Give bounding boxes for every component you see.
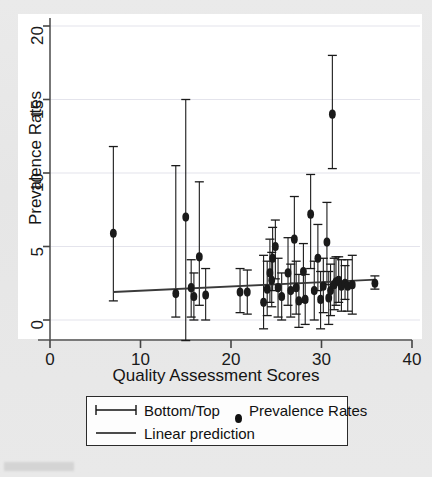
legend-row-top: Bottom/Top Prevalence Rates <box>93 399 367 421</box>
data-point <box>329 110 336 119</box>
data-point <box>172 289 179 298</box>
data-point <box>307 210 314 219</box>
legend-label-linear-prediction: Linear prediction <box>144 425 255 442</box>
data-point <box>311 286 318 295</box>
data-point <box>190 292 197 301</box>
data-point <box>349 280 356 289</box>
data-point <box>272 242 279 251</box>
data-point <box>285 268 292 277</box>
data-point <box>295 296 302 305</box>
data-point <box>302 295 309 304</box>
data-point-markers <box>110 110 378 307</box>
legend-label-prevalence-rates: Prevalence Rates <box>249 402 367 419</box>
data-point <box>264 285 271 294</box>
error-bar-icon <box>93 402 139 418</box>
data-point <box>320 282 327 291</box>
x-axis-title: Quality Assessment Scores <box>0 366 432 386</box>
chart-canvas <box>0 0 432 400</box>
figure-container: 05101520 010203040 Prevalence Rates Qual… <box>0 0 432 477</box>
data-point <box>182 213 189 222</box>
gridlines <box>50 26 420 320</box>
y-axis-title: Prevalence Rates <box>26 58 46 258</box>
data-point <box>314 254 321 263</box>
legend-label-bottom-top: Bottom/Top <box>144 402 220 419</box>
data-point <box>202 290 209 299</box>
data-point <box>268 276 275 285</box>
data-point <box>300 267 307 276</box>
data-point <box>324 237 331 246</box>
legend-box: Bottom/Top Prevalence Rates Linear predi… <box>86 396 348 446</box>
data-point <box>196 252 203 261</box>
data-point <box>291 235 298 244</box>
axis-ticks <box>43 26 412 348</box>
data-point <box>293 283 300 292</box>
data-point <box>110 229 117 238</box>
data-point <box>244 287 251 296</box>
line-icon <box>93 425 139 441</box>
scan-artifact <box>4 462 74 471</box>
data-point <box>275 283 282 292</box>
error-bars <box>109 55 380 340</box>
data-point <box>278 292 285 301</box>
data-point <box>260 298 267 307</box>
legend-row-bottom: Linear prediction <box>93 422 255 444</box>
data-point <box>371 279 378 288</box>
data-point <box>317 295 324 304</box>
data-point <box>188 283 195 292</box>
axis-lines <box>38 18 412 340</box>
data-point <box>269 254 276 263</box>
data-point <box>237 287 244 296</box>
